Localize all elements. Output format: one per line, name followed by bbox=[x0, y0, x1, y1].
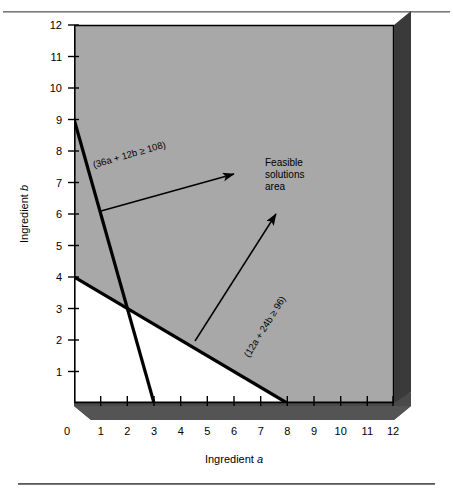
y-tick-label-1: 1 bbox=[56, 366, 62, 378]
x-tick-label-12: 12 bbox=[387, 425, 399, 437]
x-tick-label-6: 6 bbox=[231, 425, 237, 437]
x-axis-tick-labels: 0 1 2 3 4 5 6 7 8 9 10 11 12 bbox=[64, 425, 399, 437]
x-axis-title-word: Ingredient bbox=[205, 453, 257, 465]
y-tick-label-10: 10 bbox=[50, 82, 62, 94]
x-axis-title-variable: a bbox=[257, 453, 263, 465]
x-tick-label-3: 3 bbox=[151, 425, 157, 437]
y-axis-title-word: Ingredient bbox=[18, 191, 30, 243]
top-rule bbox=[3, 11, 450, 13]
y-tick-label-3: 3 bbox=[56, 303, 62, 315]
y-tick-label-11: 11 bbox=[51, 51, 62, 63]
plot-base-front-face bbox=[74, 406, 411, 420]
x-tick-label-11: 11 bbox=[362, 425, 373, 437]
feasible-region-chart: 1 2 3 4 5 6 7 8 9 10 11 12 bbox=[0, 0, 453, 498]
y-axis-title: Ingredient b bbox=[18, 185, 30, 243]
x-tick-label-0: 0 bbox=[64, 425, 70, 437]
y-tick-label-4: 4 bbox=[56, 271, 62, 283]
y-axis-tick-labels: 1 2 3 4 5 6 7 8 9 10 11 12 bbox=[50, 19, 62, 378]
bottom-rule bbox=[18, 483, 435, 485]
feasible-label-line-1: Feasible bbox=[265, 157, 303, 168]
linear-programming-figure: 1 2 3 4 5 6 7 8 9 10 11 12 bbox=[0, 0, 453, 498]
y-tick-label-9: 9 bbox=[56, 114, 62, 126]
y-tick-label-5: 5 bbox=[56, 240, 62, 252]
feasible-label-line-3: area bbox=[265, 181, 285, 192]
x-tick-label-7: 7 bbox=[258, 425, 264, 437]
x-axis-title: Ingredient a bbox=[205, 453, 263, 465]
feasible-label-line-2: solutions bbox=[265, 169, 304, 180]
x-tick-label-4: 4 bbox=[178, 425, 184, 437]
y-axis-title-variable: b bbox=[18, 185, 30, 191]
y-tick-label-7: 7 bbox=[56, 177, 62, 189]
y-tick-label-8: 8 bbox=[56, 145, 62, 157]
x-tick-label-5: 5 bbox=[204, 425, 210, 437]
x-tick-label-10: 10 bbox=[335, 425, 347, 437]
y-tick-label-6: 6 bbox=[56, 208, 62, 220]
plot-right-shadow-panel bbox=[394, 11, 411, 406]
y-tick-label-2: 2 bbox=[56, 334, 62, 346]
x-tick-label-1: 1 bbox=[98, 425, 104, 437]
x-tick-label-8: 8 bbox=[284, 425, 290, 437]
x-tick-label-2: 2 bbox=[124, 425, 130, 437]
x-tick-label-9: 9 bbox=[311, 425, 317, 437]
y-tick-label-12: 12 bbox=[50, 19, 62, 31]
